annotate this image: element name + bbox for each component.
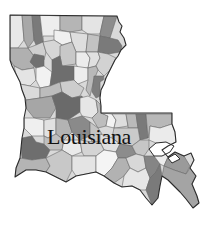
parish-map-graphic bbox=[0, 0, 213, 227]
louisiana-map: Louisiana bbox=[0, 0, 213, 227]
state-label: Louisiana bbox=[47, 126, 131, 148]
parish-region bbox=[86, 34, 100, 52]
parish-region bbox=[10, 15, 24, 48]
parish-region bbox=[60, 42, 76, 66]
parish-region bbox=[60, 16, 82, 32]
parish-regions bbox=[10, 15, 199, 208]
